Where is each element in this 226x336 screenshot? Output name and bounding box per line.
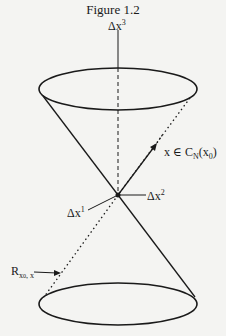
vector-line (118, 147, 154, 195)
ray-label-arrowhead (54, 270, 61, 276)
light-cone-diagram (0, 0, 226, 336)
apex-point (116, 193, 121, 198)
lower-right-generator (118, 195, 195, 297)
depth-axis (88, 195, 118, 210)
vector-label: x ∈ CN(x0) (164, 146, 217, 161)
axis-label-x1: Δx1 (67, 206, 85, 219)
bottom-cone-ellipse (39, 283, 197, 325)
vector-arrowhead (150, 143, 157, 151)
ray-label: Rx0, x (11, 265, 34, 280)
axis-label-x3: Δx3 (108, 19, 126, 32)
axis-label-x2: Δx2 (147, 189, 165, 202)
upper-left-generator (43, 96, 118, 195)
ray-label-arrow (34, 272, 57, 273)
